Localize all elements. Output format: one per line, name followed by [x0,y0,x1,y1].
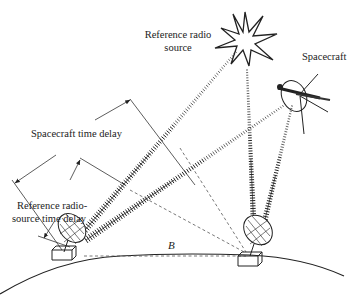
ref-delay-arrow-upper [70,160,80,180]
spacecraft-delay-label: Spacecraft time delay [31,128,123,139]
sc-delay-arrow-lower [15,155,56,183]
spacecraft-icon [276,74,330,134]
reference-source-label-line1: Reference radio [145,29,212,40]
ref-delay-arrow-lower [44,222,54,238]
reference-delay-label-line1: Reference radio- [17,200,88,211]
ref-delay-perpendicular [80,158,125,185]
signal-paths [77,51,293,243]
delay-markers [12,99,195,250]
sc-wavefront-dashed [180,148,246,252]
reference-source-label-line2: source [164,42,192,53]
baseline-label: B [168,239,175,251]
beam-ref-to-left [77,51,236,238]
vlbi-diagram: Reference radio source Spacecraft Spacec… [0,0,355,298]
sc-delay-arrow-upper [95,100,130,120]
right-antenna-icon [238,209,278,266]
spacecraft-label: Spacecraft [302,51,346,62]
beam-ref-to-right [246,70,257,232]
reference-radio-source-icon [215,12,277,66]
reference-delay-label-line2: source time delay [12,213,87,224]
beam-sc-to-right [259,106,293,233]
